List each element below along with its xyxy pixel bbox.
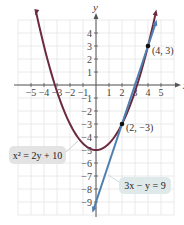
- y-tick-label: 1: [87, 67, 92, 78]
- y-tick-label: 2: [87, 54, 92, 65]
- x-tick-label: 5: [159, 87, 164, 98]
- intersection-point: [146, 44, 151, 49]
- parabola-equation-label: x² = 2y + 10: [9, 146, 66, 164]
- y-tick-label: −3: [81, 119, 92, 130]
- y-tick-label: 3: [87, 41, 92, 52]
- x-axis-arrow-icon: [175, 83, 181, 88]
- x-tick-label: −4: [39, 87, 50, 98]
- x-tick-label: 1: [107, 87, 112, 98]
- parabola-arrow-right-icon: [153, 10, 158, 16]
- y-axis-label: y: [92, 1, 98, 13]
- line-equation-label: 3x − y = 9: [119, 177, 171, 194]
- y-tick-label: −4: [81, 132, 92, 143]
- y-axis-arrow-icon: [94, 13, 99, 19]
- x-tick-label: 4: [146, 87, 151, 98]
- x-tick-label: −5: [26, 87, 37, 98]
- y-tick-label: −1: [81, 93, 92, 104]
- x-tick-label: −2: [65, 87, 76, 98]
- y-tick-label: −6: [81, 158, 92, 169]
- y-tick-label: −7: [81, 171, 92, 182]
- intersection-point: [120, 122, 125, 127]
- intersection-point-label: (2, −3): [126, 122, 153, 134]
- y-tick-label: −8: [81, 184, 92, 195]
- x-axis-label: x: [182, 79, 184, 91]
- y-tick-label: −2: [81, 106, 92, 117]
- y-tick-label: −9: [81, 197, 92, 208]
- intersection-point-label: (4, 3): [152, 45, 174, 57]
- x-tick-label: 2: [120, 87, 125, 98]
- y-tick-label: 4: [87, 28, 92, 39]
